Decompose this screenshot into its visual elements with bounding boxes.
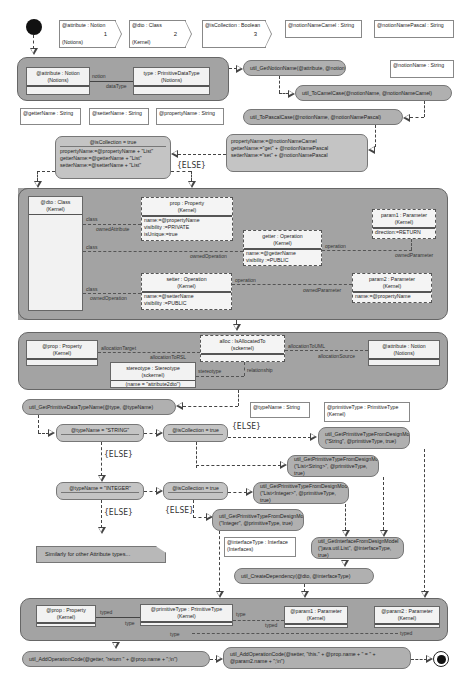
link-label: type — [236, 611, 245, 617]
object-param2[interactable]: param2 : Parameter(Kernel) name:=@proper… — [352, 273, 432, 303]
object-prop-alloc[interactable]: @prop : Property(Kernel) — [26, 340, 98, 366]
variable-notionNamePascal[interactable]: @notionNamePascal : String — [374, 20, 454, 38]
link-label: allocationToRSL — [150, 354, 186, 360]
variable-getterName[interactable]: @getterName : String — [20, 108, 81, 125]
action-addOperationCode-setter[interactable]: util_AddOperationCode(@setter, "this." +… — [223, 647, 411, 669]
flow-edge — [101, 442, 102, 476]
assign-names-block[interactable]: propertyName:=@notionNameCamel getterNam… — [226, 134, 368, 172]
flow-edge — [196, 465, 281, 466]
link-label: dataType — [106, 83, 127, 89]
flow-edge — [345, 504, 346, 530]
parameter-isCollection[interactable]: @isCollection : Boolean 3 — [202, 20, 266, 48]
flow-edge — [38, 415, 39, 433]
parameter-attribute[interactable]: @attribute : Notion 1 (Notions) — [59, 20, 116, 48]
arrow-icon — [368, 146, 375, 154]
object-prop[interactable]: prop : Property(Kernel) name:=@propertyN… — [141, 197, 233, 241]
variable-interfaceType[interactable]: @interfaceType : Interface (Interfaces) — [224, 537, 296, 557]
link-label: operation — [235, 277, 256, 283]
variable-propertyName[interactable]: @propertyName : String — [156, 108, 224, 125]
action-createDependency[interactable]: util_CreateDependency(@dto, @interfaceTy… — [234, 568, 374, 584]
object-prop-typed[interactable]: @prop : Property(Kernel) — [36, 605, 96, 627]
action-toCamelCase[interactable]: util_ToCamelCase(@notionName, @notionNam… — [295, 85, 452, 101]
link — [96, 617, 140, 618]
arrow-icon — [48, 429, 55, 437]
action-getPrimitiveType-Integer[interactable]: util_GetPrimitiveTypeFromDesignModel ("I… — [212, 509, 304, 531]
object-param1[interactable]: param1 : Parameter(Kernel) direction:=RE… — [372, 209, 436, 239]
object-dto[interactable]: @dto : Class(Kernel) — [28, 196, 83, 311]
flow-edge — [383, 477, 384, 530]
arrow-icon — [341, 560, 349, 567]
decision-typeName-string[interactable]: @typeName = "STRING" — [56, 424, 144, 442]
flow-edge — [33, 35, 34, 49]
arrow-icon — [310, 433, 317, 441]
link — [232, 284, 352, 285]
variable-primitiveType[interactable]: @primitiveType : PrimitiveType (Kernel) — [324, 402, 410, 422]
flow-edge — [193, 500, 194, 518]
variable-notionNameCamel[interactable]: @notionNameCamel : String — [285, 20, 362, 38]
link — [98, 352, 200, 353]
link-label: typed — [265, 622, 277, 628]
object-attribute-alloc[interactable]: @attribute : Notion(Notions) — [368, 340, 440, 366]
link — [83, 251, 243, 252]
flow-edge — [411, 659, 427, 660]
flow-edge — [191, 171, 192, 181]
arrow-icon — [98, 475, 106, 482]
action-getPrimitiveType-String[interactable]: util_GetPrimitiveTypeFromDesignModel ("S… — [318, 427, 410, 449]
variable-setterName[interactable]: @setterName : String — [89, 108, 149, 125]
link-label: allocationSource — [318, 353, 355, 359]
link — [322, 250, 412, 251]
note-other-types: Similarly for other Attribute types... — [36, 546, 166, 563]
object-alloc[interactable]: alloc : IsAllocatedTo(sckernel) — [200, 335, 285, 362]
link-label: notion — [92, 73, 106, 79]
decision-isCollection-string[interactable]: @isCollection = true — [163, 424, 228, 442]
object-type[interactable]: type : PrimitiveDataType(Notions) — [133, 67, 210, 95]
link-label: allocationTarget — [101, 345, 136, 351]
action-getNotionName[interactable]: util_GetNotionName(@attribute, @notionNa… — [243, 60, 346, 76]
flow-edge — [238, 390, 239, 406]
arrow-icon — [233, 324, 241, 331]
link-label: class — [86, 244, 97, 250]
action-getPrimitiveType-ListString[interactable]: util_GetPrimitiveTypeFromDesignModel ("L… — [287, 455, 379, 477]
arrow-icon — [171, 150, 178, 158]
action-getPrimitiveType-ListInteger[interactable]: util_GetPrimitiveTypeFromDesignModel ("L… — [253, 482, 349, 504]
object-param1-typed[interactable]: @param1 : Parameter(Kernel) — [284, 606, 348, 628]
flow-edge — [228, 437, 311, 438]
object-getter[interactable]: getter : Operation(Kernel) name:=@getter… — [243, 230, 322, 266]
variable-notionName[interactable]: @notionName : String — [390, 60, 454, 78]
else-label: {ELSE} — [232, 422, 261, 431]
object-setter[interactable]: setter : Operation(Kernel) name:=@setter… — [141, 273, 232, 310]
link — [90, 81, 133, 82]
link — [192, 633, 398, 634]
arrow-icon — [30, 48, 38, 55]
flow-edge — [279, 76, 280, 93]
flow-edge — [304, 584, 305, 592]
arrow-icon — [98, 527, 106, 534]
decision-isCollection-integer[interactable]: @isCollection = true — [163, 482, 228, 500]
flow-edge — [178, 154, 226, 155]
object-stereotype[interactable]: stereotype : Stereotype(sckernel) (name … — [110, 362, 196, 388]
object-param2-typed[interactable]: @param2 : Parameter(Kernel) — [374, 606, 440, 628]
link-label: ownedOperation — [90, 295, 127, 301]
parameter-dto[interactable]: @dto : Class 2 (Kernel) — [129, 20, 186, 48]
link — [244, 362, 245, 376]
variable-typeName[interactable]: @typeName : String — [250, 402, 310, 418]
arrow-icon — [426, 655, 433, 663]
decision-typeName-integer[interactable]: @typeName = "INTEGER" — [56, 482, 144, 500]
object-attribute[interactable]: @attribute : Notion(Notions) — [26, 67, 90, 95]
decision-isCollection[interactable]: @isCollection = true propertyName:=@prop… — [55, 136, 171, 179]
link-label: relationship — [247, 367, 273, 373]
else-label: {ELSE} — [177, 161, 206, 170]
arrow-icon — [288, 90, 295, 98]
flow-edge — [37, 171, 38, 181]
arrow-icon — [246, 488, 253, 496]
object-primitiveType-typed[interactable]: @primitiveType : PrimitiveType(Kernel) — [140, 604, 233, 626]
action-getInterface[interactable]: util_GetInterfaceFromDesignModel ("java.… — [311, 537, 404, 559]
flow-edge — [171, 171, 191, 172]
flow-edge — [37, 171, 55, 172]
action-addOperationCode-getter[interactable]: util_AddOperationCode(@getter, "return "… — [22, 651, 210, 667]
action-toPascalCase[interactable]: util_ToPascalCase(@notionName, @notionNa… — [243, 109, 403, 125]
arrow-icon — [216, 655, 223, 663]
action-getPrimitiveDataTypeName[interactable]: util_GetPrimitiveDataTypeName(@type, @ty… — [22, 399, 176, 415]
arrow-icon — [216, 591, 224, 598]
arrow-icon — [380, 530, 388, 537]
